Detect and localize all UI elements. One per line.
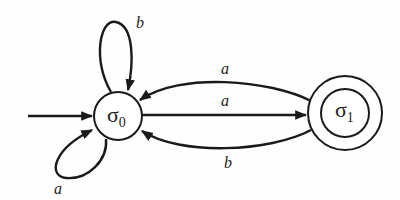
automaton-diagram: b a a a b σ0 σ1 xyxy=(0,0,400,200)
lower-arc-b-edge xyxy=(142,130,311,148)
self-loop-a-label: a xyxy=(54,180,62,197)
upper-arc-a-label: a xyxy=(221,60,229,77)
straight-a-label: a xyxy=(221,92,229,109)
self-loop-a-edge xyxy=(56,130,106,178)
self-loop-b-edge xyxy=(100,22,132,92)
state-s0: σ0 xyxy=(94,92,142,140)
self-loop-b-label: b xyxy=(136,14,144,31)
lower-arc-b-label: b xyxy=(224,154,232,171)
diagram-svg: b a a a b σ0 σ1 xyxy=(0,0,400,200)
state-s1: σ1 xyxy=(308,76,382,150)
